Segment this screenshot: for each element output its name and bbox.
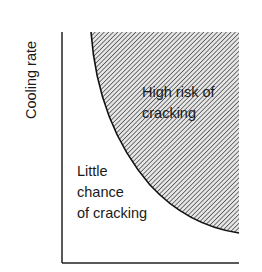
- low-risk-label-line1: Little: [77, 163, 108, 179]
- high-risk-region: [91, 32, 239, 233]
- low-risk-label-line2: chance: [77, 184, 124, 200]
- low-risk-label-line3: of cracking: [77, 205, 147, 221]
- y-axis-label: Cooling rate: [23, 41, 39, 119]
- high-risk-label-line1: High risk of: [142, 84, 215, 100]
- high-risk-label-line2: cracking: [142, 105, 196, 121]
- cracking-risk-diagram: Cooling rate High risk of cracking Littl…: [0, 0, 262, 272]
